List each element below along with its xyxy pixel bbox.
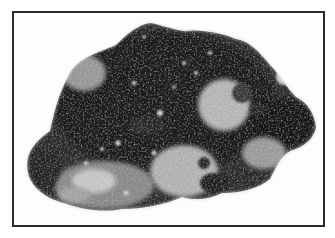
rock-specimen-photo (14, 13, 323, 225)
photo-frame (12, 11, 325, 227)
